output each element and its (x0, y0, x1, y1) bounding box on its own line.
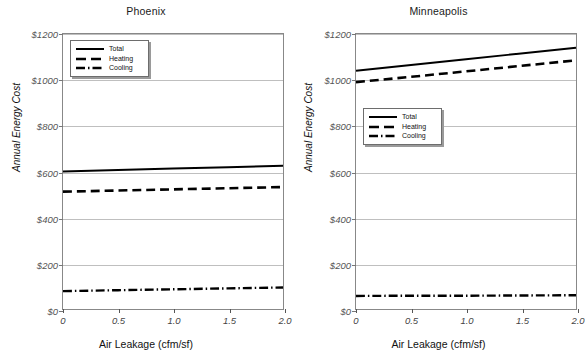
xtick-label-2.0: 2.0 (278, 315, 291, 326)
legend-key-heating-dashed (368, 123, 398, 131)
x-axis-title-phoenix: Air Leakage (cfm/sf) (0, 338, 292, 350)
series-line-total (63, 166, 283, 172)
legend-key-cooling-dashdot (368, 132, 398, 140)
chart-title-phoenix: Phoenix (0, 5, 292, 17)
xtickmark-2.0 (578, 309, 579, 313)
legend-label-heating: Heating (109, 55, 133, 63)
ytick-label-600: $600 (330, 167, 351, 178)
legend-row-total: Total (75, 45, 143, 54)
ytick-label-1200: $1200 (32, 29, 58, 40)
two-panel-line-chart-figure: Phoenix Annual Energy Cost $1200 $1000 $… (0, 0, 585, 361)
xtick-label-1.0: 1.0 (167, 315, 180, 326)
chart-panel-phoenix: Phoenix Annual Energy Cost $1200 $1000 $… (0, 0, 292, 361)
legend-label-total: Total (109, 45, 124, 53)
xtick-label-1.5: 1.5 (223, 315, 236, 326)
ytick-label-0: $0 (340, 306, 351, 317)
xtickmark-0.5 (412, 309, 413, 313)
legend-key-total-solid (75, 45, 105, 53)
series-line-total (356, 48, 576, 71)
xtickmark-0 (63, 309, 64, 313)
plot-area-minneapolis: $1200 $1000 $800 $600 $400 $200 $0 0 0.5 (355, 33, 577, 310)
xtickmark-1.0 (174, 309, 175, 313)
xtick-label-2.0: 2.0 (571, 315, 584, 326)
series-layer-minneapolis (356, 34, 576, 309)
xtickmark-0 (356, 309, 357, 313)
legend-phoenix: Total Heating Cooling (70, 40, 149, 77)
x-axis-title-minneapolis: Air Leakage (cfm/sf) (292, 338, 585, 350)
legend-row-heating: Heating (368, 122, 436, 131)
chart-title-minneapolis: Minneapolis (292, 5, 585, 17)
ytick-label-400: $400 (37, 213, 58, 224)
ytick-label-1000: $1000 (325, 75, 351, 86)
legend-minneapolis: Total Heating Cooling (363, 108, 442, 145)
series-line-heating (356, 60, 576, 82)
legend-label-cooling: Cooling (402, 132, 426, 140)
legend-row-heating: Heating (75, 54, 143, 63)
legend-label-cooling: Cooling (109, 64, 133, 72)
xtickmark-1.0 (467, 309, 468, 313)
ytick-label-800: $800 (330, 121, 351, 132)
y-axis-title-phoenix: Annual Energy Cost (11, 28, 22, 228)
ytick-label-400: $400 (330, 213, 351, 224)
series-line-cooling (63, 287, 283, 291)
chart-panel-minneapolis: Minneapolis Annual Energy Cost $1200 $10… (292, 0, 585, 361)
legend-label-total: Total (402, 113, 417, 121)
legend-key-cooling-dashdot (75, 64, 105, 72)
xtick-label-1.0: 1.0 (460, 315, 473, 326)
legend-row-total: Total (368, 113, 436, 122)
ytick-label-1200: $1200 (325, 29, 351, 40)
xtickmark-0.5 (119, 309, 120, 313)
xtick-label-0.5: 0.5 (112, 315, 125, 326)
xtickmark-2.0 (285, 309, 286, 313)
xtick-label-0: 0 (60, 315, 65, 326)
series-line-heating (63, 187, 283, 192)
series-line-cooling (356, 295, 576, 296)
legend-label-heating: Heating (402, 123, 426, 131)
ytick-label-0: $0 (47, 306, 58, 317)
xtickmark-1.5 (230, 309, 231, 313)
legend-row-cooling: Cooling (368, 132, 436, 141)
ytick-label-1000: $1000 (32, 75, 58, 86)
xtick-label-0.5: 0.5 (405, 315, 418, 326)
legend-key-total-solid (368, 113, 398, 121)
xtickmark-1.5 (523, 309, 524, 313)
ytick-label-200: $200 (330, 259, 351, 270)
ytick-label-800: $800 (37, 121, 58, 132)
y-axis-title-minneapolis: Annual Energy Cost (303, 28, 314, 228)
xtick-label-0: 0 (353, 315, 358, 326)
legend-row-cooling: Cooling (75, 64, 143, 73)
plot-area-phoenix: $1200 $1000 $800 $600 $400 $200 $0 0 0.5 (62, 33, 284, 310)
ytick-label-600: $600 (37, 167, 58, 178)
ytick-label-200: $200 (37, 259, 58, 270)
xtick-label-1.5: 1.5 (516, 315, 529, 326)
legend-key-heating-dashed (75, 55, 105, 63)
